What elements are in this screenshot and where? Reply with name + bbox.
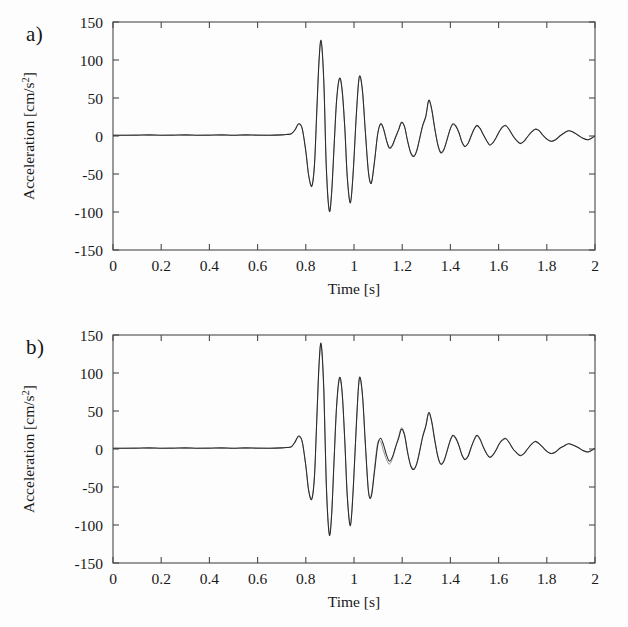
- x-axis-title: Time [s]: [328, 593, 380, 610]
- y-axis-title: Acceleration [cm/s2]: [20, 385, 37, 513]
- y-tick-label: 150: [80, 327, 104, 344]
- svg-text:Acceleration [cm/s2]: Acceleration [cm/s2]: [20, 72, 37, 200]
- y-tick-label: 150: [80, 14, 104, 31]
- y-tick-label: -100: [75, 517, 104, 534]
- x-axis-title: Time [s]: [328, 280, 380, 297]
- trace-recorded: [113, 343, 595, 535]
- x-tick-label: 0.6: [248, 257, 268, 274]
- trace-simulated: [113, 345, 595, 534]
- x-tick-label: 0.2: [152, 257, 171, 274]
- y-tick-label: -50: [82, 479, 103, 496]
- x-tick-label: 0.6: [248, 570, 268, 587]
- x-tick-label: 1.8: [537, 257, 557, 274]
- y-axis-title: Acceleration [cm/s2]: [20, 72, 37, 200]
- x-tick-label: 1.4: [441, 570, 461, 587]
- x-tick-label: 2: [591, 570, 599, 587]
- y-tick-label: 50: [88, 90, 104, 107]
- figure-container: a) 00.20.40.60.811.21.41.61.82150100500-…: [0, 0, 628, 627]
- y-tick-label: 100: [80, 52, 104, 69]
- trace-simulated: [113, 42, 595, 211]
- x-tick-label: 0.4: [200, 570, 220, 587]
- y-tick-label: 100: [80, 365, 104, 382]
- svg-text:Acceleration [cm/s2]: Acceleration [cm/s2]: [20, 385, 37, 513]
- y-tick-label: 50: [88, 403, 104, 420]
- x-tick-label: 1: [350, 257, 358, 274]
- y-tick-label: -150: [75, 555, 104, 572]
- x-tick-label: 0.2: [152, 570, 171, 587]
- x-tick-label: 0.8: [296, 257, 316, 274]
- trace-recorded: [113, 40, 595, 211]
- panel-b: b) 00.20.40.60.811.21.41.61.82150100500-…: [0, 313, 628, 626]
- x-tick-label: 0.8: [296, 570, 316, 587]
- x-tick-label: 1.4: [441, 257, 461, 274]
- panel-a: a) 00.20.40.60.811.21.41.61.82150100500-…: [0, 0, 628, 313]
- y-tick-label: 0: [95, 441, 103, 458]
- y-tick-label: 0: [95, 128, 103, 145]
- plot-frame: [113, 335, 595, 563]
- plot-frame: [113, 22, 595, 250]
- y-tick-label: -150: [75, 242, 104, 259]
- x-tick-label: 1.6: [489, 570, 509, 587]
- x-tick-label: 2: [591, 257, 599, 274]
- x-tick-label: 1: [350, 570, 358, 587]
- y-tick-label: -100: [75, 204, 104, 221]
- x-tick-label: 1.8: [537, 570, 557, 587]
- x-tick-label: 0: [109, 257, 117, 274]
- x-tick-label: 0.4: [200, 257, 220, 274]
- x-tick-label: 0: [109, 570, 117, 587]
- panel-a-plot: 00.20.40.60.811.21.41.61.82150100500-50-…: [0, 0, 628, 313]
- y-tick-label: -50: [82, 166, 103, 183]
- panel-b-plot: 00.20.40.60.811.21.41.61.82150100500-50-…: [0, 313, 628, 626]
- x-tick-label: 1.6: [489, 257, 509, 274]
- x-tick-label: 1.2: [393, 570, 412, 587]
- x-tick-label: 1.2: [393, 257, 412, 274]
